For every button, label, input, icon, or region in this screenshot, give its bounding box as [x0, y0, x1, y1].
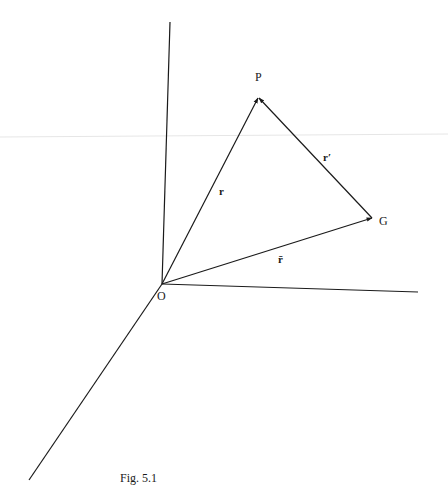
axis-oblique [29, 284, 162, 480]
label-vector-r-bar: r̄ [278, 253, 283, 265]
label-point-p: P [255, 70, 262, 84]
label-vector-r-prime: r′ [323, 151, 331, 163]
vector-r [162, 98, 258, 284]
scan-artifact-line [0, 134, 448, 137]
label-vector-r: r [219, 185, 224, 197]
axis-vertical [162, 22, 170, 284]
vector-r-prime [259, 98, 372, 218]
label-point-g: G [379, 214, 388, 228]
axis-horizontal [162, 284, 418, 292]
figure-caption: Fig. 5.1 [120, 471, 157, 485]
label-point-o: O [157, 289, 166, 303]
vector-diagram: P G O r r̄ r′ Fig. 5.1 [0, 0, 448, 493]
vector-r-bar [162, 218, 372, 284]
